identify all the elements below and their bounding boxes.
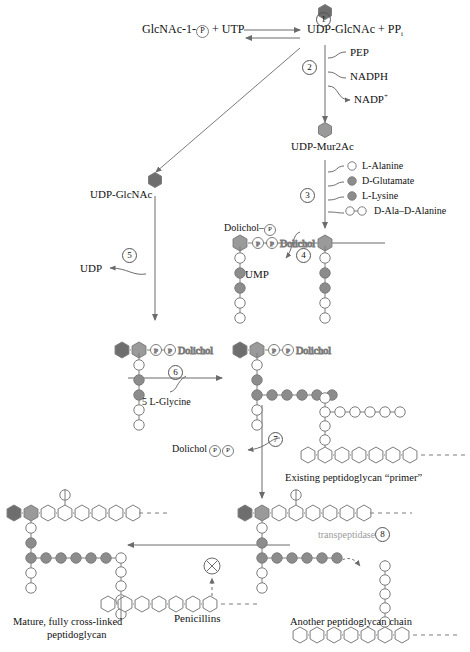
chain-b-residue-2 (235, 283, 245, 293)
chain-a-residue-0 (320, 253, 330, 263)
legend-residue-2 (348, 192, 356, 200)
mature-label-line1: Mature, fully cross-linked (13, 616, 122, 627)
dolichol-p-input-label: Dolichol–P (224, 222, 276, 236)
nadph-label: NADPH (350, 70, 388, 82)
residue-label-3: D-Ala–D-Alanine (374, 205, 446, 216)
legend-residue-3-b (358, 207, 366, 215)
dolichol-pp-output-label: DolicholPP (172, 443, 234, 457)
legend-residue-3-a (346, 207, 354, 215)
primer-residue-0 (320, 435, 330, 445)
br-backbone-5 (357, 505, 371, 521)
legend-residue-1 (348, 177, 356, 185)
lipid-ii-right-chain-residue-4 (252, 420, 262, 430)
glcnac-text: GlcNAc-1- (142, 22, 196, 36)
step-3-badge: 3 (300, 188, 315, 203)
step-6-number: 6 (168, 365, 183, 380)
nadp-text: NADP (354, 93, 384, 105)
mature-glycine-4 (101, 553, 111, 563)
mature-backbone-1 (58, 505, 72, 521)
mature-residue-2 (26, 553, 36, 563)
mature-residue-4 (26, 583, 36, 593)
mature-glycine-1 (56, 553, 66, 563)
phosphate-icon: P (222, 445, 234, 457)
mature-lower-backbone-3 (152, 596, 166, 612)
residue-label-1: D-Glutamate (362, 175, 414, 186)
pathway-svg: PPDolicholPPDolicholPPDolichol (0, 0, 470, 652)
step-1-number: 1 (316, 12, 331, 27)
chain-a-residue-3 (320, 298, 330, 308)
lipid-ii-right-glcnac-hexagon (233, 342, 247, 358)
primer-glycine-3 (380, 407, 390, 417)
nadp-charge: + (384, 92, 388, 100)
glycine-label: 5 L-Glycine (142, 396, 191, 407)
lipid-ii-left-chain-residue-1 (134, 375, 144, 385)
primer-backbone-5 (386, 447, 400, 463)
chain-b-residue-0 (235, 253, 245, 263)
lipid-ii-right-glycine-0 (267, 390, 277, 400)
primer-backbone-3 (352, 447, 366, 463)
phosphate-letter: P (168, 347, 172, 355)
ump-label: UMP (245, 268, 269, 280)
glcnac-1p-utp-label: GlcNAc-1-P + UTP (142, 22, 244, 38)
phosphate-letter: P (270, 240, 274, 248)
step-2-number: 2 (302, 60, 317, 75)
primer-residue-1 (320, 421, 330, 431)
pep-label: PEP (350, 46, 369, 58)
step-4-badge: 4 (296, 248, 311, 263)
nadp-label: NADP+ (354, 92, 388, 105)
br-acceptor-residue-0 (380, 561, 390, 571)
lipid-ii-right-dolichol-label: Dolichol (296, 345, 331, 356)
br-backbone-0 (272, 505, 286, 521)
mature-lower-backbone-4 (169, 596, 183, 612)
chain-a-residue-2 (320, 283, 330, 293)
udp-mur2ac-label: UDP-Mur2Ac (291, 140, 354, 152)
step-3-number: 3 (300, 188, 315, 203)
residue-label-0: L-Alanine (362, 160, 403, 171)
br-backbone-3 (323, 505, 337, 521)
chain-a-residue-4 (320, 313, 330, 323)
br-glycine-4 (332, 553, 342, 563)
br-lower-backbone-3 (344, 627, 358, 643)
chain-a-residue-1 (320, 268, 330, 278)
dolichol-input-text: Dolichol– (224, 222, 264, 233)
utp-text: + UTP (209, 22, 244, 36)
lipid-ii-right-chain-residue-0 (252, 360, 262, 370)
lipid-ii-left-chain-residue-4 (134, 420, 144, 430)
br-backbone-2 (306, 505, 320, 521)
bottom-right-glcnac (238, 505, 252, 521)
br-residue-0 (257, 523, 267, 533)
br-glycine-1 (287, 553, 297, 563)
mature-acceptor-residue-2 (116, 581, 126, 591)
penicillins-label: Penicillins (174, 612, 220, 624)
primer-backbone-4 (369, 447, 383, 463)
residue-label-2: L-Lysine (362, 190, 398, 201)
another-chain-label: Another peptidoglycan chain (290, 616, 412, 627)
br-lower-backbone-0 (293, 627, 307, 643)
lipid-ii-right-chain-residue-3 (252, 405, 262, 415)
step-5-badge: 5 (122, 248, 137, 263)
mature-lower-backbone-2 (135, 596, 149, 612)
phosphate-icon: P (264, 224, 276, 236)
phosphate-letter: P (256, 240, 260, 248)
mature-acceptor-residue-1 (116, 567, 126, 577)
br-lower-backbone-6 (395, 627, 409, 643)
lipid-ii-left-glcnac-hexagon (115, 342, 129, 358)
mature-lower-backbone-5 (186, 596, 200, 612)
lipid-ii-right-glycine-2 (297, 390, 307, 400)
br-glycine-0 (272, 553, 282, 563)
br-lower-backbone-1 (310, 627, 324, 643)
primer-glycine-2 (365, 407, 375, 417)
lipid-ii-right-chain-residue-1 (252, 375, 262, 385)
mature-glcnac (7, 505, 21, 521)
br-residue-4 (257, 583, 267, 593)
br-acceptor-residue-2 (380, 589, 390, 599)
step-8-number: 8 (375, 527, 390, 542)
transpeptidase-label: transpeptidase (318, 529, 375, 540)
br-lower-backbone-4 (361, 627, 375, 643)
phosphate-letter: P (286, 347, 290, 355)
mature-backbone-4 (109, 505, 123, 521)
primer-residue-3 (320, 393, 330, 403)
mature-backbone-2 (75, 505, 89, 521)
br-residue-3 (257, 568, 267, 578)
primer-backbone-0 (301, 447, 315, 463)
